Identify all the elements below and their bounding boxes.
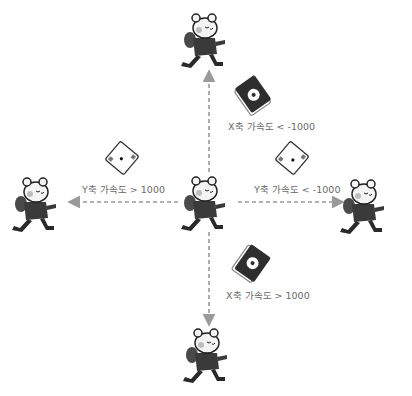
character-left xyxy=(12,174,60,234)
light-device-icon xyxy=(272,140,312,176)
character-center xyxy=(181,173,229,233)
running-character-icon xyxy=(181,10,229,70)
dark-device-icon xyxy=(232,244,272,284)
device-tilted-down xyxy=(232,244,272,284)
running-character-icon xyxy=(340,176,388,236)
running-character-icon xyxy=(181,173,229,233)
device-tilted-left xyxy=(102,140,142,176)
label-y-lt-neg1000: Y축 가속도 < -1000 xyxy=(254,182,340,196)
running-character-icon xyxy=(183,325,231,385)
dark-device-icon xyxy=(232,76,272,116)
character-top xyxy=(181,10,229,70)
character-right xyxy=(340,176,388,236)
device-tilted-up xyxy=(232,76,272,116)
running-character-icon xyxy=(12,174,60,234)
character-bottom xyxy=(183,325,231,385)
label-x-gt-1000: X축 가속도 > 1000 xyxy=(226,288,310,302)
label-y-gt-1000: Y축 가속도 > 1000 xyxy=(82,182,165,196)
label-x-lt-neg1000: X축 가속도 < -1000 xyxy=(228,119,315,133)
device-tilted-right xyxy=(272,140,312,176)
light-device-icon xyxy=(102,140,142,176)
